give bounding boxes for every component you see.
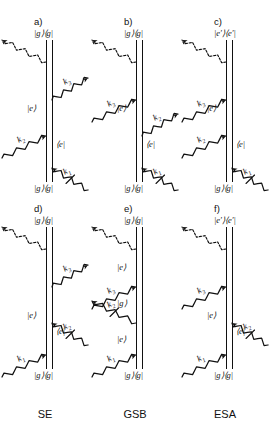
interaction-emission-e bbox=[92, 227, 136, 250]
feynman-panel-a: a)|g⟩⟨g||g⟩⟨g|k1k2k3|e⟩⟨e| bbox=[0, 16, 90, 201]
column-name-esa: ESA bbox=[180, 408, 270, 420]
bra-state-f-0: ⟨e| bbox=[236, 327, 245, 336]
column-name-se: SE bbox=[0, 408, 90, 420]
ket-state-e-1: |g⟩ bbox=[117, 299, 127, 308]
ket-state-b-0: |e⟩ bbox=[117, 104, 126, 113]
photon-arrows-b bbox=[90, 16, 180, 201]
bra-state-b-0: ⟨e| bbox=[146, 140, 155, 149]
photon-arrows-a bbox=[0, 16, 90, 201]
column-name-gsb: GSB bbox=[90, 408, 180, 420]
ket-state-a-0: |e⟩ bbox=[27, 104, 36, 113]
photon-arrows-e bbox=[90, 203, 180, 388]
interaction-emission-a bbox=[2, 40, 46, 63]
feynman-panel-d: d)|g⟩⟨g||g⟩⟨g|k1k2k3|e⟩⟨e| bbox=[0, 203, 90, 388]
ket-state-c-0: |e⟩ bbox=[207, 104, 216, 113]
ket-state-e-0: |e⟩ bbox=[117, 263, 126, 272]
feynman-panel-f: f)|e′⟩⟨e′||g⟩⟨g|k1k2k3|e⟩⟨e| bbox=[180, 203, 270, 388]
feynman-diagram-figure: a)|g⟩⟨g||g⟩⟨g|k1k2k3|e⟩⟨e|b)|g⟩⟨g||g⟩⟨g|… bbox=[0, 0, 271, 433]
feynman-panel-b: b)|g⟩⟨g||g⟩⟨g|k1k2k3|e⟩⟨e| bbox=[90, 16, 180, 201]
photon-arrows-f bbox=[180, 203, 270, 388]
photon-arrows-c bbox=[180, 16, 270, 201]
interaction-emission-c bbox=[182, 40, 226, 63]
interaction-emission-f bbox=[182, 227, 226, 250]
feynman-panel-e: e)|g⟩⟨g||g⟩⟨g|k1k2k3|e⟩|g⟩|e⟩ bbox=[90, 203, 180, 388]
photon-arrows-d bbox=[0, 203, 90, 388]
bra-state-a-0: ⟨e| bbox=[56, 140, 65, 149]
ket-state-d-0: |e⟩ bbox=[27, 311, 36, 320]
bra-state-d-0: ⟨e| bbox=[56, 327, 65, 336]
feynman-panel-c: c)|e′⟩⟨e′||g⟩⟨g|k1k2k3|e⟩⟨e| bbox=[180, 16, 270, 201]
interaction-emission-b bbox=[92, 40, 136, 63]
ket-state-f-0: |e⟩ bbox=[207, 311, 216, 320]
ket-state-e-2: |e⟩ bbox=[117, 335, 126, 344]
bra-state-c-0: ⟨e| bbox=[236, 140, 245, 149]
interaction-emission-d bbox=[2, 227, 46, 250]
